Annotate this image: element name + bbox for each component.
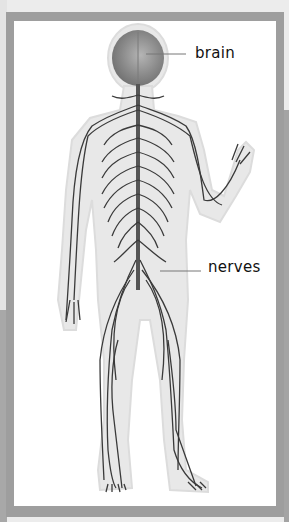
nerves-label: nerves bbox=[208, 258, 261, 276]
brain-label: brain bbox=[195, 44, 235, 62]
